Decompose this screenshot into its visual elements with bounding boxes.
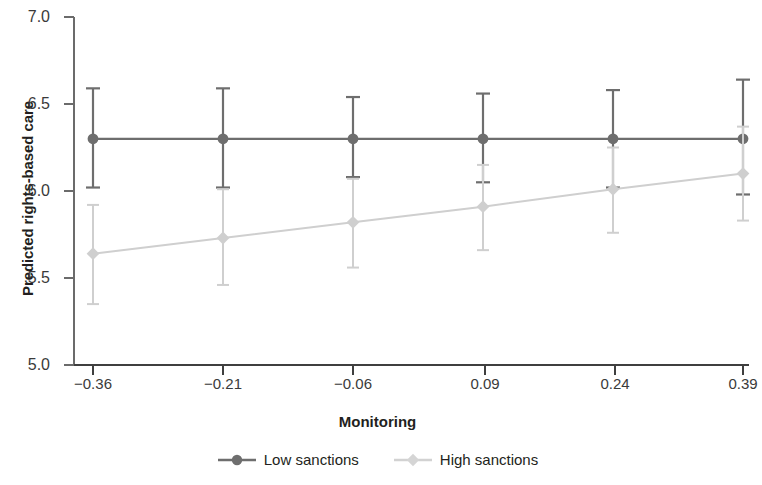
y-axis-ticks [64, 17, 74, 365]
series-high-sanctions [87, 127, 750, 304]
data-series-layer [86, 80, 750, 304]
data-point-marker [348, 133, 359, 144]
data-point-marker [607, 183, 620, 196]
legend-marker-circle-icon [217, 453, 257, 467]
data-point-marker [608, 133, 619, 144]
data-point-marker [347, 216, 360, 229]
x-axis-ticks [93, 365, 743, 375]
axis-lines [74, 17, 749, 365]
legend-item-high-sanctions[interactable]: High sanctions [393, 452, 538, 468]
data-point-marker [477, 200, 490, 213]
series-low-sanctions [86, 80, 750, 195]
legend-marker-diamond-icon [393, 453, 433, 467]
series-line [93, 174, 743, 254]
plot-area [0, 0, 755, 400]
data-point-marker [217, 232, 230, 245]
legend-label: Low sanctions [264, 452, 359, 468]
legend-item-low-sanctions[interactable]: Low sanctions [217, 452, 359, 468]
x-axis-title: Monitoring [0, 413, 755, 430]
data-point-marker [737, 167, 750, 180]
legend-label: High sanctions [440, 452, 538, 468]
data-point-marker [87, 247, 100, 260]
data-point-marker [218, 133, 229, 144]
data-point-marker [478, 133, 489, 144]
chart-legend: Low sanctions High sanctions [0, 452, 755, 468]
data-point-marker [88, 133, 99, 144]
